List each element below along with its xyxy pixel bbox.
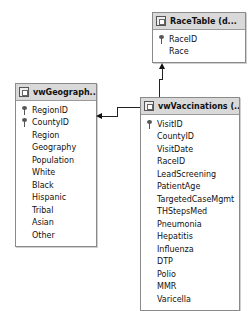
- primary-key-icon: [159, 35, 164, 44]
- column-row[interactable]: Varicella: [141, 293, 239, 306]
- table-header[interactable]: vwVaccinations (...: [141, 98, 239, 115]
- column-row[interactable]: Population: [16, 154, 96, 167]
- connector-line: [159, 79, 160, 97]
- column-row[interactable]: Black: [16, 179, 96, 192]
- column-row[interactable]: Hispanic: [16, 192, 96, 205]
- column-name: Pneumonia: [157, 220, 202, 229]
- column-row[interactable]: Hepatitis: [141, 231, 239, 244]
- column-row[interactable]: CountyID: [141, 131, 239, 144]
- column-row[interactable]: LeadScreening: [141, 168, 239, 181]
- column-name: Other: [32, 231, 55, 240]
- table-racetable[interactable]: RaceTable (d... RaceID Race: [152, 12, 246, 63]
- table-vwvaccinations[interactable]: vwVaccinations (... VisitID CountyID Vis…: [140, 97, 240, 311]
- connector-line: [162, 68, 163, 79]
- column-name: Population: [32, 156, 74, 165]
- connector-line: [117, 107, 140, 108]
- column-row[interactable]: RaceID: [141, 156, 239, 169]
- column-row[interactable]: White: [16, 167, 96, 180]
- column-name: DTP: [157, 257, 173, 266]
- column-row[interactable]: Geography: [16, 142, 96, 155]
- column-name: MMR: [157, 282, 176, 291]
- column-list: RaceID Race: [153, 30, 245, 62]
- column-name: RaceID: [157, 157, 185, 166]
- table-icon: [156, 16, 166, 26]
- column-row[interactable]: Other: [16, 229, 96, 242]
- column-name: PatientAge: [157, 182, 200, 191]
- column-name: LeadScreening: [157, 170, 216, 179]
- view-icon: [144, 101, 154, 111]
- column-row[interactable]: VisitID: [141, 118, 239, 131]
- column-name: TargetedCaseMgmt: [157, 195, 234, 204]
- column-row[interactable]: Pneumonia: [141, 218, 239, 231]
- table-title: RaceTable (d...: [170, 17, 237, 26]
- column-row[interactable]: VisitDate: [141, 143, 239, 156]
- column-name: Region: [32, 131, 59, 140]
- column-name: Asian: [32, 218, 54, 227]
- column-name: Hepatitis: [157, 232, 193, 241]
- column-row[interactable]: MMR: [141, 281, 239, 294]
- column-name: Hispanic: [32, 193, 66, 202]
- column-list: VisitID CountyID VisitDate RaceID LeadSc…: [141, 115, 239, 310]
- column-name: CountyID: [32, 118, 69, 127]
- column-row[interactable]: PatientAge: [141, 181, 239, 194]
- column-name: CountyID: [157, 132, 194, 141]
- column-list: RegionID CountyID Region Geography Popul…: [16, 101, 96, 246]
- column-row[interactable]: Asian: [16, 217, 96, 230]
- column-name: THStepsMed: [157, 207, 207, 216]
- primary-key-icon: [147, 120, 152, 129]
- column-name: RegionID: [32, 106, 68, 115]
- table-vwgeography[interactable]: vwGeograph... RegionID CountyID Region G…: [15, 83, 97, 247]
- view-icon: [19, 87, 29, 97]
- column-row[interactable]: Region: [16, 129, 96, 142]
- table-header[interactable]: RaceTable (d...: [153, 13, 245, 30]
- column-row[interactable]: RaceID: [153, 33, 245, 46]
- column-row[interactable]: TargetedCaseMgmt: [141, 193, 239, 206]
- column-row[interactable]: Tribal: [16, 204, 96, 217]
- column-name: RaceID: [169, 35, 197, 44]
- column-name: Tribal: [32, 206, 53, 215]
- column-row[interactable]: DTP: [141, 256, 239, 269]
- connector-line: [117, 107, 118, 117]
- column-name: Black: [32, 181, 54, 190]
- column-name: Race: [169, 47, 189, 56]
- column-name: Polio: [157, 270, 176, 279]
- column-row[interactable]: Influenza: [141, 243, 239, 256]
- column-row[interactable]: CountyID: [16, 117, 96, 130]
- column-name: Varicella: [157, 295, 191, 304]
- column-name: VisitID: [157, 120, 183, 129]
- table-header[interactable]: vwGeograph...: [16, 84, 96, 101]
- column-row[interactable]: Race: [153, 46, 245, 59]
- table-title: vwGeograph...: [33, 88, 96, 97]
- column-name: VisitDate: [157, 145, 193, 154]
- column-row[interactable]: RegionID: [16, 104, 96, 117]
- connector-line: [102, 116, 118, 117]
- primary-key-icon: [22, 118, 27, 127]
- column-name: Geography: [32, 143, 76, 152]
- column-row[interactable]: THStepsMed: [141, 206, 239, 219]
- table-title: vwVaccinations (...: [158, 102, 239, 111]
- column-row[interactable]: Polio: [141, 268, 239, 281]
- column-name: Influenza: [157, 245, 194, 254]
- primary-key-icon: [22, 106, 27, 115]
- column-name: White: [32, 168, 55, 177]
